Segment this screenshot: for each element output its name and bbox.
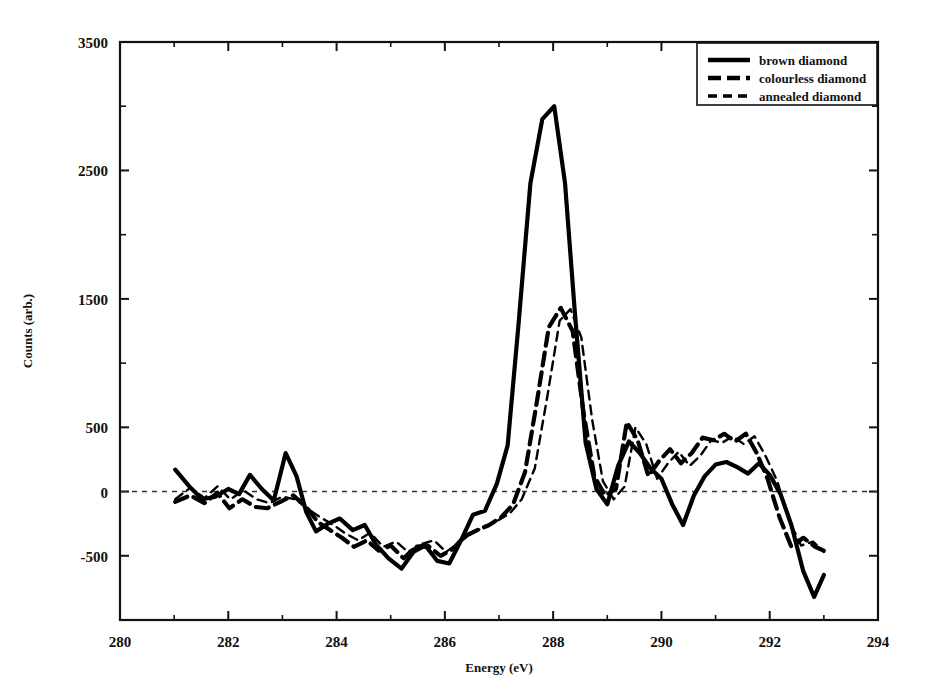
legend: brown diamondcolourless diamondannealed … — [697, 43, 877, 105]
y-tick-label: -500 — [81, 549, 109, 565]
x-tick-label: 290 — [650, 634, 673, 650]
series-line — [175, 309, 824, 552]
y-tick-label: 500 — [86, 420, 109, 436]
x-tick-label: 284 — [325, 634, 348, 650]
x-tick-label: 292 — [758, 634, 781, 650]
y-tick-label: 2500 — [78, 163, 108, 179]
x-axis-ticks — [174, 42, 824, 620]
x-tick-label: 280 — [109, 634, 132, 650]
xanes-spectrum-chart: 280282284286288290292294 -50005001500250… — [0, 0, 926, 689]
x-tick-label: 282 — [217, 634, 240, 650]
legend-label: annealed diamond — [759, 89, 862, 104]
y-tick-label: 0 — [101, 485, 109, 501]
x-axis-tick-labels: 280282284286288290292294 — [109, 634, 890, 650]
legend-label: colourless diamond — [759, 71, 867, 86]
x-axis-title: Energy (eV) — [465, 660, 533, 675]
data-series-group — [175, 106, 824, 597]
plot-frame — [120, 42, 878, 620]
x-tick-label: 294 — [867, 634, 890, 650]
legend-label: brown diamond — [759, 53, 848, 68]
figure-container: 280282284286288290292294 -50005001500250… — [0, 0, 926, 689]
y-axis-title: Counts (arb.) — [20, 294, 35, 368]
y-axis-ticks — [120, 106, 878, 556]
x-tick-label: 286 — [434, 634, 457, 650]
y-tick-label: 3500 — [78, 35, 108, 51]
y-tick-label: 1500 — [78, 292, 108, 308]
series-line — [175, 106, 824, 597]
y-axis-tick-labels: -5000500150025003500 — [78, 35, 108, 565]
x-tick-label: 288 — [542, 634, 565, 650]
legend-items: brown diamondcolourless diamondannealed … — [708, 53, 867, 104]
